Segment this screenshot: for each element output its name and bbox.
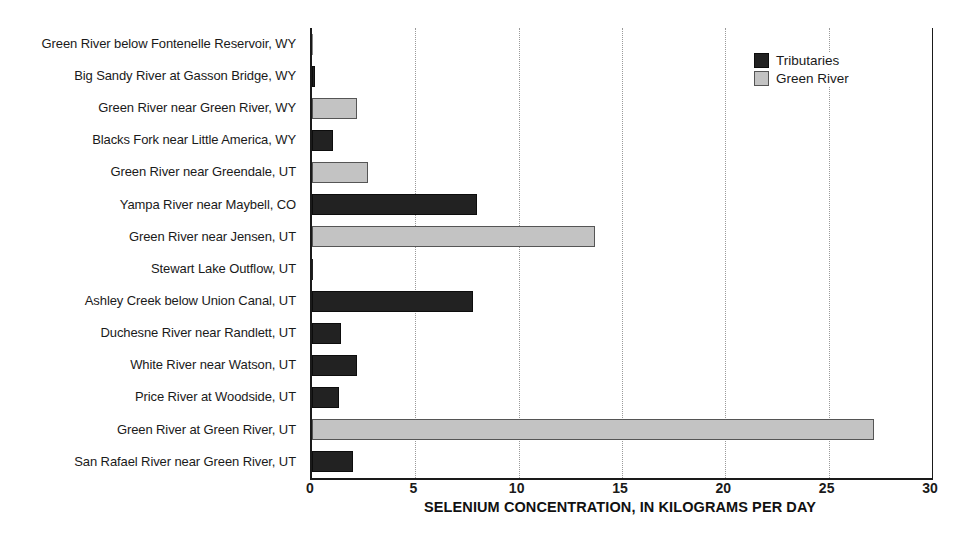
bar [312, 162, 368, 183]
bar [312, 419, 874, 440]
x-tick-label: 5 [409, 480, 417, 496]
selenium-concentration-bar-chart: Green River below Fontenelle Reservoir, … [0, 0, 967, 546]
category-label: Yampa River near Maybell, CO [0, 189, 303, 221]
bar-row [312, 189, 932, 221]
bar [312, 323, 341, 344]
category-label: Ashley Creek below Union Canal, UT [0, 285, 303, 317]
bar-row [312, 253, 932, 285]
plot-area [310, 28, 933, 480]
x-tick-label: 10 [509, 480, 525, 496]
bar-series-container [312, 28, 932, 478]
bar [312, 387, 339, 408]
bar-row [312, 221, 932, 253]
bar-row [312, 285, 932, 317]
category-label: Green River near Green River, WY [0, 92, 303, 124]
x-tick-label: 25 [819, 480, 835, 496]
category-label: Green River at Green River, UT [0, 414, 303, 446]
legend-label: Tributaries [776, 53, 839, 68]
bar-row [312, 349, 932, 381]
x-tick-label: 30 [922, 480, 938, 496]
bar [312, 291, 473, 312]
category-label: Green River near Greendale, UT [0, 157, 303, 189]
category-label: Big Sandy River at Gasson Bridge, WY [0, 60, 303, 92]
bar [312, 130, 333, 151]
bar [312, 98, 357, 119]
legend-item: Tributaries [754, 53, 849, 68]
category-label: Price River at Woodside, UT [0, 382, 303, 414]
legend-swatch-icon [754, 53, 769, 68]
bar-row [312, 92, 932, 124]
category-axis-labels: Green River below Fontenelle Reservoir, … [0, 28, 303, 478]
bar-row [312, 124, 932, 156]
category-label: Duchesne River near Randlett, UT [0, 317, 303, 349]
bar [312, 226, 595, 247]
bar [312, 451, 353, 472]
bar [312, 259, 313, 280]
bar [312, 34, 313, 55]
category-label: Stewart Lake Outflow, UT [0, 253, 303, 285]
legend-item: Green River [754, 71, 849, 86]
category-label: San Rafael River near Green River, UT [0, 446, 303, 478]
bar-row [312, 382, 932, 414]
x-tick-label: 15 [612, 480, 628, 496]
chart-legend: TributariesGreen River [752, 52, 851, 87]
category-label: Green River below Fontenelle Reservoir, … [0, 28, 303, 60]
bar-row [312, 446, 932, 478]
bar [312, 194, 477, 215]
category-label: Green River near Jensen, UT [0, 221, 303, 253]
bar [312, 355, 357, 376]
category-label: Blacks Fork near Little America, WY [0, 124, 303, 156]
legend-label: Green River [776, 71, 849, 86]
x-axis-title: SELENIUM CONCENTRATION, IN KILOGRAMS PER… [310, 499, 930, 515]
bar-row [312, 157, 932, 189]
bar-row [312, 317, 932, 349]
bar [312, 66, 315, 87]
bar-row [312, 414, 932, 446]
legend-swatch-icon [754, 71, 769, 86]
category-label: White River near Watson, UT [0, 349, 303, 381]
x-tick-label: 20 [716, 480, 732, 496]
x-tick-label: 0 [306, 480, 314, 496]
